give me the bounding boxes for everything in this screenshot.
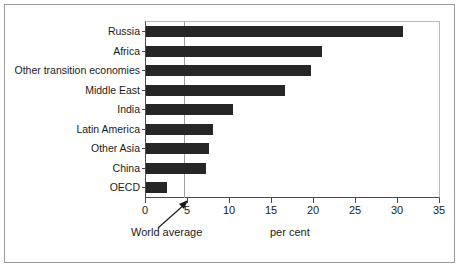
bar-row: Latin America [146,120,440,140]
bar-row: Africa [146,42,440,62]
bar [146,182,167,193]
bar-row: Other Asia [146,139,440,159]
bar [146,143,209,154]
bar [146,46,322,57]
x-axis-tick [355,198,356,203]
x-axis-tick-label: 25 [340,204,370,216]
category-label: China [0,163,140,174]
bar [146,104,233,115]
cut-off-title [0,0,461,1]
x-axis-tick [439,198,440,203]
bar [146,26,403,37]
world-average-caption: World average [131,226,202,238]
x-axis-tick [313,198,314,203]
bar [146,163,206,174]
per-cent-caption: per cent [270,226,310,238]
bar [146,85,285,96]
bar [146,65,311,76]
bar-row: Middle East [146,81,440,101]
bar-row: OECD [146,178,440,198]
x-axis-tick-label: 15 [256,204,286,216]
x-axis-tick-label: 30 [382,204,412,216]
bar-row: Russia [146,22,440,42]
category-label: Middle East [0,85,140,96]
bar-row: India [146,100,440,120]
category-label: Russia [0,26,140,37]
x-axis-tick [187,198,188,203]
category-label: Latin America [0,124,140,135]
category-label: Other Asia [0,143,140,154]
bar-row: China [146,159,440,179]
x-axis-tick [145,198,146,203]
x-axis-tick [229,198,230,203]
chart-figure: RussiaAfricaOther transition economiesMi… [0,0,461,269]
x-axis-tick-label: 20 [298,204,328,216]
x-axis-tick [271,198,272,203]
category-label: India [0,104,140,115]
x-axis-tick [397,198,398,203]
bar [146,124,213,135]
category-label: OECD [0,182,140,193]
x-axis-tick-label: 0 [130,204,160,216]
x-axis-tick-label: 10 [214,204,244,216]
x-axis-tick-label: 35 [424,204,454,216]
category-label: Other transition economies [0,65,140,76]
bar-row: Other transition economies [146,61,440,81]
bar-series: RussiaAfricaOther transition economiesMi… [146,22,440,198]
x-axis-tick-label: 5 [172,204,202,216]
category-label: Africa [0,46,140,57]
